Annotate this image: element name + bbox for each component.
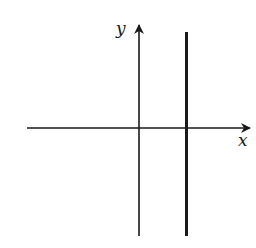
y-axis-label: y <box>115 18 126 38</box>
axes-diagram: x y <box>0 0 256 248</box>
diagram-canvas: x y <box>0 0 256 248</box>
x-axis-label: x <box>238 130 248 150</box>
